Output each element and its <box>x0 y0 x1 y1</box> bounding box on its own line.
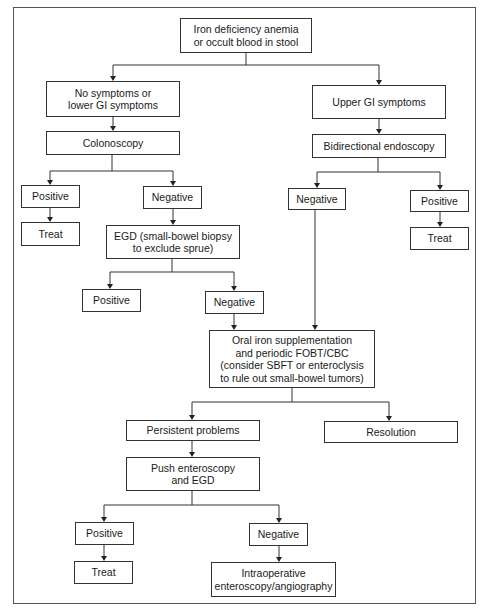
node-push-negative: Negative <box>249 523 308 546</box>
node-colonoscopy-negative: Negative <box>143 186 202 209</box>
node-upper-gi-symptoms: Upper GI symptoms <box>312 85 446 119</box>
node-push-enteroscopy: Push enteroscopy and EGD <box>126 457 260 491</box>
node-colonoscopy: Colonoscopy <box>46 131 180 155</box>
node-colonoscopy-treat: Treat <box>21 222 80 246</box>
node-bidirectional-treat: Treat <box>410 227 469 250</box>
node-start: Iron deficiency anemia or occult blood i… <box>180 18 312 53</box>
node-egd-negative: Negative <box>205 291 264 314</box>
node-egd: EGD (small-bowel biopsy to exclude sprue… <box>106 225 240 259</box>
node-colonoscopy-positive: Positive <box>21 185 80 208</box>
node-push-treat: Treat <box>74 561 133 584</box>
node-bidirectional-positive: Positive <box>410 190 469 212</box>
node-intraoperative: Intraoperative enteroscopy/angiography <box>211 562 336 597</box>
node-bidirectional-negative: Negative <box>288 188 346 210</box>
node-egd-positive: Positive <box>82 289 141 312</box>
node-oral-iron: Oral iron supplementation and periodic F… <box>209 330 375 388</box>
node-push-positive: Positive <box>75 522 134 545</box>
node-bidirectional-endoscopy: Bidirectional endoscopy <box>312 134 446 158</box>
node-lower-gi-symptoms: No symptoms or lower GI symptoms <box>46 81 180 117</box>
node-resolution: Resolution <box>324 421 458 443</box>
node-persistent-problems: Persistent problems <box>126 420 260 441</box>
